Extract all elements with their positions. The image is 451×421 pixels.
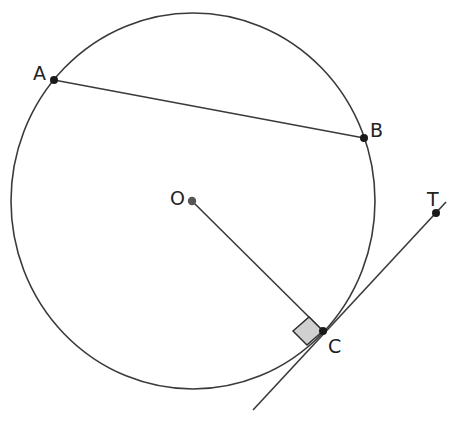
label-a: A (33, 62, 46, 84)
point-t (432, 209, 440, 217)
label-o: O (170, 187, 185, 209)
chord-ab (54, 80, 364, 138)
tangent-line-ct (253, 202, 446, 410)
radius-oc (192, 201, 323, 331)
label-t: T (426, 188, 439, 210)
right-angle-marker (293, 317, 323, 345)
point-c (319, 327, 327, 335)
point-a (50, 76, 58, 84)
label-c: C (328, 335, 341, 357)
point-b (360, 134, 368, 142)
point-o-center (188, 197, 196, 205)
label-b: B (370, 119, 383, 141)
geometry-diagram: A B O C T (0, 0, 451, 421)
